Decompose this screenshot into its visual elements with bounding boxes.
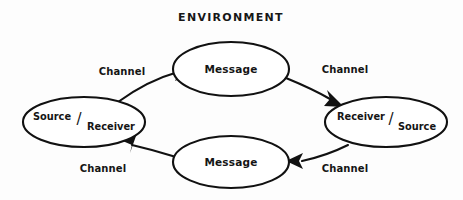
node-top-message[interactable]: Message	[173, 42, 289, 96]
edge-bottom-right-line	[302, 145, 348, 161]
edge-top-right-line	[286, 78, 330, 99]
node-right-party-denominator: Source	[398, 121, 436, 132]
edge-bottom-right-label: Channel	[322, 163, 368, 174]
edge-bottom-right: Channel	[286, 145, 368, 174]
node-left-party-denominator: Receiver	[87, 121, 135, 132]
node-left-party-numerator: Source	[33, 111, 71, 122]
diagram-canvas: ENVIRONMENT Channel Channel Channel Chan…	[0, 0, 463, 200]
edge-bottom-left-label: Channel	[80, 163, 126, 174]
node-left-party[interactable]: Source / Receiver	[23, 97, 145, 147]
node-right-party[interactable]: Receiver / Source	[325, 97, 447, 147]
edge-bottom-left-line	[132, 145, 176, 157]
diagram-title: ENVIRONMENT	[178, 11, 284, 24]
node-right-party-numerator: Receiver	[337, 111, 385, 122]
node-bottom-message-label: Message	[204, 156, 257, 168]
edge-top-left-label: Channel	[99, 66, 145, 77]
edge-top-right-label: Channel	[322, 64, 368, 75]
node-bottom-message[interactable]: Message	[173, 136, 289, 188]
communication-model-diagram: ENVIRONMENT Channel Channel Channel Chan…	[0, 0, 463, 200]
node-top-message-label: Message	[204, 63, 257, 75]
